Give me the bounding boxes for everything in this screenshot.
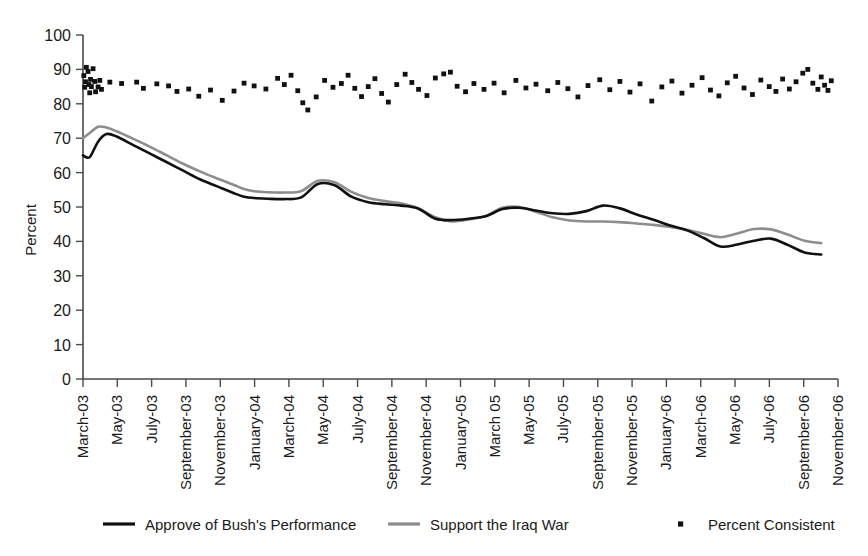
scatter-point [448, 70, 453, 75]
scatter-point [379, 91, 384, 96]
scatter-point [607, 87, 612, 92]
scatter-point [373, 76, 378, 81]
scatter-point [463, 89, 468, 94]
x-tick-label: May-05 [520, 395, 537, 445]
scatter-point [409, 80, 414, 85]
x-tick-label: March 05 [486, 395, 503, 458]
y-tick-label: 90 [53, 61, 71, 78]
x-tick-label: September-03 [177, 395, 194, 490]
scatter-point [425, 93, 430, 98]
scatter-point [352, 86, 357, 91]
y-axis-ticks: 1009080706050403020100 [44, 27, 83, 388]
x-tick-label: March-03 [74, 395, 91, 458]
scatter-point [141, 86, 146, 91]
scatter-point [346, 73, 351, 78]
scatter-point [252, 84, 257, 89]
y-tick-label: 100 [44, 27, 71, 44]
scatter-point [92, 79, 97, 84]
y-tick-label: 10 [53, 337, 71, 354]
scatter-point [107, 80, 112, 85]
x-axis-ticks: March-03May-03July-03September-03Novembe… [74, 379, 846, 490]
y-axis-title: Percent [22, 203, 39, 256]
scatter-point [800, 71, 805, 76]
scatter-point [81, 73, 86, 78]
scatter-point [750, 92, 755, 97]
x-tick-label: March-04 [280, 395, 297, 458]
x-tick-label: November-05 [623, 395, 640, 486]
x-tick-label: November-03 [211, 395, 228, 486]
scatter-point [91, 66, 96, 71]
scatter-point [649, 99, 654, 104]
scatter-point [716, 93, 721, 98]
x-tick-label: January-06 [657, 395, 674, 470]
scatter-point [300, 100, 305, 105]
scatter-point [545, 88, 550, 93]
scatter-point [513, 78, 518, 83]
scatter-point [774, 89, 779, 94]
x-tick-label: March-06 [692, 395, 709, 458]
scatter-point [680, 91, 685, 96]
scatter-point [275, 76, 280, 81]
scatter-point [295, 88, 300, 93]
x-tick-label: July-06 [760, 395, 777, 443]
scatter-point [628, 90, 633, 95]
y-axis-title-label: Percent [22, 203, 39, 256]
scatter-point [154, 81, 159, 86]
scatter-point [758, 78, 763, 83]
scatter-point [314, 95, 319, 100]
series-percent-consistent [81, 65, 833, 112]
x-tick-label: September-04 [383, 395, 400, 490]
scatter-point [617, 79, 622, 84]
scatter-point [829, 78, 834, 83]
scatter-point [322, 78, 327, 83]
scatter-point [134, 80, 139, 85]
scatter-point [403, 72, 408, 77]
scatter-point [638, 81, 643, 86]
scatter-point [186, 87, 191, 92]
x-tick-label: July-03 [143, 395, 160, 443]
series-lines [83, 126, 821, 254]
chart-svg: Percent 1009080706050403020100 March-03M… [0, 0, 868, 556]
y-tick-label: 50 [53, 199, 71, 216]
legend-label: Percent Consistent [708, 516, 836, 533]
legend-label: Support the Iraq War [430, 516, 569, 533]
scatter-point [787, 87, 792, 92]
scatter-point [502, 90, 507, 95]
scatter-point [339, 81, 344, 86]
scatter-point [742, 86, 747, 91]
scatter-point [455, 84, 460, 89]
scatter-point [492, 81, 497, 86]
scatter-point [175, 89, 180, 94]
scatter-point [208, 88, 213, 93]
scatter-point [524, 86, 529, 91]
scatter-point [433, 76, 438, 81]
scatter-point [819, 75, 824, 80]
scatter-point [733, 74, 738, 79]
x-tick-label: July-05 [554, 395, 571, 443]
scatter-point [700, 75, 705, 80]
y-tick-label: 70 [53, 130, 71, 147]
scatter-point [416, 87, 421, 92]
x-tick-label: May-03 [108, 395, 125, 445]
x-tick-label: January-05 [452, 395, 469, 470]
scatter-point [767, 84, 772, 89]
chart-axes [83, 35, 838, 379]
scatter-point [366, 84, 371, 89]
scatter-point [670, 79, 675, 84]
scatter-point [482, 87, 487, 92]
y-tick-label: 0 [62, 371, 71, 388]
scatter-point [86, 69, 91, 74]
scatter-point [93, 89, 98, 94]
scatter-point [282, 82, 287, 87]
x-tick-label: January-04 [246, 395, 263, 470]
scatter-point [690, 83, 695, 88]
scatter-point [725, 80, 730, 85]
y-tick-label: 20 [53, 302, 71, 319]
scatter-point [659, 85, 664, 90]
scatter-point [359, 94, 364, 99]
scatter-point [87, 90, 92, 95]
scatter-point [780, 77, 785, 82]
scatter-point [576, 95, 581, 100]
scatter-point [565, 86, 570, 91]
scatter-point [305, 108, 310, 113]
